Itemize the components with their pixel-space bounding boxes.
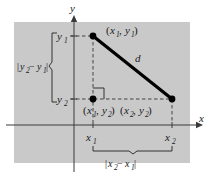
point-label-corner-x: x [86,104,92,116]
x2-tick-label-letter: x [164,131,170,143]
y1-tick-label-subscript: 1 [64,36,68,45]
horizontal-brace-x2-letter: x [107,158,113,169]
distance-label-d: d [135,52,141,64]
vertical-brace-bar-close: | [46,61,48,72]
x2-tick-label-subscript: 2 [172,137,176,146]
horizontal-brace-minus: − [117,158,123,169]
point-label-upper-y: y [124,24,130,36]
point-label-corner-close: ) [111,104,115,117]
point-marker-lower-right [169,96,176,103]
y2-tick-label-subscript: 2 [64,99,68,108]
point-label-corner-y: y [101,104,107,116]
x-axis-label: x [198,112,204,124]
point-label-upper-comma: , [119,24,122,36]
vertical-brace-bar-open: | [17,61,19,72]
point-label-upper-close: ) [134,24,138,37]
y1-tick-label-letter: y [56,30,62,42]
point-label-lower-right-close: ) [148,104,152,117]
y2-tick-label-letter: y [56,93,62,105]
horizontal-brace-x1-letter: x [124,158,130,169]
vertical-brace-minus: − [29,61,35,72]
x1-tick-label-subscript: 1 [93,137,97,146]
vertical-brace-y2-letter: y [19,61,25,72]
point-label-lower-right-x: x [123,104,129,116]
x1-tick-label-letter: x [85,131,91,143]
point-label-lower-right-comma: , [133,104,136,116]
point-label-upper-x: x [109,24,115,36]
y-axis-arrowhead [71,15,77,22]
y-axis-label: y [69,2,75,14]
point-label-corner-comma: , [96,104,99,116]
point-label-lower-right-y: y [138,104,144,116]
vertical-brace-y1-letter: y [36,61,42,72]
figure-canvas: x y y 1 y 2 x 1 x 2 [0,0,213,184]
horizontal-brace-bar-close: | [134,158,136,169]
horizontal-brace-bar-open: | [105,158,107,169]
point-marker-corner [90,96,97,103]
distance-formula-figure: x y y 1 y 2 x 1 x 2 [0,0,213,184]
point-marker-upper [90,33,97,40]
